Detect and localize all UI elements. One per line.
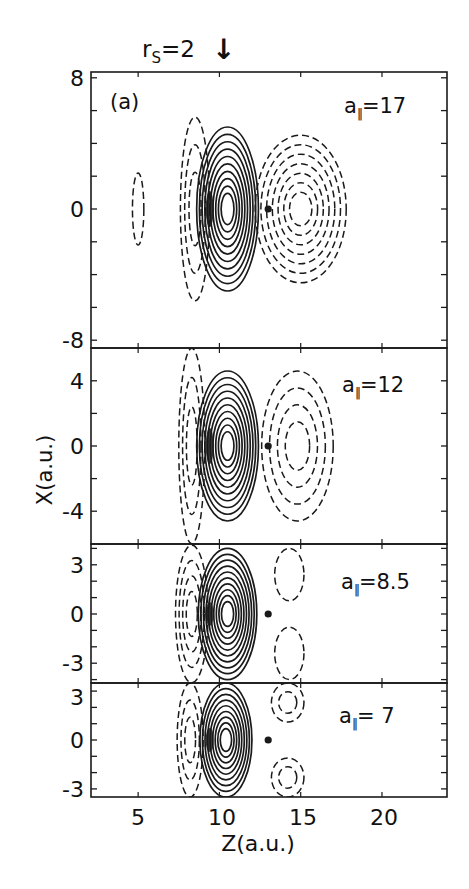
negative-contour bbox=[285, 422, 309, 471]
arrow-down-icon: ↓ bbox=[212, 36, 235, 64]
xtick-label: 10 bbox=[208, 807, 236, 829]
y-axis-label: X(a.u.) bbox=[33, 435, 57, 505]
ytick-label: 3 bbox=[70, 555, 84, 577]
negative-contour bbox=[290, 192, 312, 226]
negative-contour bbox=[267, 154, 335, 264]
negative-contour bbox=[278, 173, 323, 245]
ytick-label: 0 bbox=[70, 199, 84, 221]
panel-2-param-label: a‖=12 bbox=[342, 373, 404, 400]
ytick-label: 0 bbox=[70, 436, 84, 458]
panel-3 bbox=[91, 544, 447, 683]
dense-contour-region bbox=[206, 191, 214, 227]
ytick-label: -3 bbox=[62, 779, 84, 801]
xtick-label: 20 bbox=[370, 807, 398, 829]
negative-contour bbox=[262, 371, 334, 521]
negative-contour bbox=[272, 164, 329, 255]
panel-1-param-label: a‖=17 bbox=[344, 94, 406, 121]
dense-contour-region bbox=[206, 728, 214, 752]
positive-contour bbox=[214, 584, 242, 644]
param-value: =12 bbox=[360, 373, 404, 397]
param-symbol: a bbox=[344, 94, 357, 118]
positive-contour bbox=[220, 729, 231, 752]
xtick-label: 15 bbox=[289, 807, 317, 829]
negative-contour bbox=[271, 758, 304, 797]
ytick-label: 0 bbox=[70, 604, 84, 626]
param-value: = 7 bbox=[357, 704, 395, 728]
param-value: =17 bbox=[362, 94, 406, 118]
panel-4-param-label: a‖= 7 bbox=[339, 704, 395, 731]
negative-contour bbox=[279, 767, 297, 789]
ion-marker bbox=[265, 736, 272, 743]
x-axis-label: Z(a.u.) bbox=[221, 833, 295, 855]
param-symbol: a bbox=[342, 373, 355, 397]
negative-contour bbox=[275, 548, 304, 600]
ytick-label: -3 bbox=[62, 653, 84, 675]
positive-contour bbox=[213, 412, 242, 481]
ion-marker bbox=[265, 442, 272, 449]
panel-tag: (a) bbox=[110, 92, 139, 113]
param-value: =8.5 bbox=[359, 570, 410, 594]
positive-contour bbox=[221, 432, 234, 460]
ytick-label: 0 bbox=[70, 730, 84, 752]
ytick-label: 8 bbox=[70, 68, 84, 90]
positive-contour bbox=[221, 193, 234, 224]
positive-contour bbox=[221, 602, 233, 627]
param-symbol: a bbox=[339, 704, 352, 728]
negative-contour bbox=[132, 173, 143, 245]
panel-3-param-label: a‖=8.5 bbox=[341, 570, 410, 597]
ytick-label: 4 bbox=[70, 371, 84, 393]
rs-subscript: S bbox=[151, 49, 161, 67]
contour-group bbox=[132, 117, 346, 301]
dense-contour-region bbox=[206, 602, 214, 626]
ytick-label: -8 bbox=[62, 330, 84, 352]
negative-contour bbox=[275, 627, 304, 679]
xtick-label: 5 bbox=[131, 807, 145, 829]
contour-group bbox=[179, 348, 333, 544]
rs-value: =2 bbox=[161, 36, 195, 62]
ion-marker bbox=[265, 205, 272, 212]
negative-contour bbox=[186, 407, 197, 485]
negative-contour bbox=[279, 692, 297, 714]
negative-contour bbox=[271, 683, 304, 722]
rs-annotation: rS=2 bbox=[142, 38, 195, 66]
negative-contour bbox=[183, 378, 201, 515]
contour-group bbox=[176, 545, 304, 683]
negative-contour bbox=[181, 700, 199, 780]
dense-contour-region bbox=[206, 428, 214, 464]
positive-contour bbox=[213, 171, 242, 246]
panel-4 bbox=[91, 683, 447, 797]
negative-contour bbox=[186, 592, 197, 637]
positive-contour bbox=[213, 711, 240, 768]
negative-contour bbox=[185, 717, 196, 763]
contour-group bbox=[177, 683, 304, 797]
param-symbol: a bbox=[341, 570, 354, 594]
ytick-label: -4 bbox=[62, 501, 84, 523]
ion-marker bbox=[265, 610, 272, 617]
negative-contour bbox=[277, 405, 317, 487]
ytick-label: 3 bbox=[70, 687, 84, 709]
